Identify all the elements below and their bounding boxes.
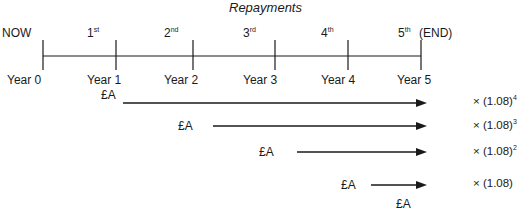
repayment-label-4: 4th (321, 26, 334, 40)
arrow-row-4 (371, 181, 427, 189)
final-amount-label: £A (396, 197, 411, 211)
year-label-3: Year 3 (243, 73, 277, 87)
ordinal-suffix: st (94, 26, 99, 33)
repayment-number: 4 (321, 26, 328, 40)
multiplier-exponent: 3 (513, 118, 517, 125)
ordinal-suffix: nd (171, 26, 179, 33)
repayment-label-3: 3rd (243, 26, 256, 40)
year-label-2: Year 2 (164, 73, 198, 87)
repayment-label-2: 2nd (164, 26, 178, 40)
repayment-number: 1 (87, 26, 94, 40)
now-label: NOW (2, 26, 31, 40)
year-label-0: Year 0 (7, 73, 41, 87)
arrow-row-3 (297, 148, 427, 156)
ordinal-suffix: th (405, 26, 411, 33)
end-label: (END) (419, 26, 452, 40)
amount-label-row-1: £A (101, 88, 116, 102)
repayment-label-1: 1st (87, 26, 99, 40)
repayment-number: 2 (164, 26, 171, 40)
multiplier-row-4: × (1.08) (473, 177, 513, 189)
multiplier-base: × (1.08) (473, 177, 513, 189)
ordinal-suffix: rd (250, 26, 256, 33)
year-label-4: Year 4 (321, 73, 355, 87)
repayment-label-5: 5th (398, 26, 411, 40)
multiplier-base: × (1.08) (473, 145, 513, 157)
repayment-number: 5 (398, 26, 405, 40)
multiplier-base: × (1.08) (473, 119, 513, 131)
amount-label-row-2: £A (178, 119, 193, 133)
ordinal-suffix: th (328, 26, 334, 33)
multiplier-exponent: 4 (513, 94, 517, 101)
multiplier-base: × (1.08) (473, 95, 513, 107)
repayment-number: 3 (243, 26, 250, 40)
multiplier-row-2: × (1.08)3 (473, 119, 517, 131)
arrow-row-1 (123, 99, 427, 107)
year-label-5: Year 5 (397, 73, 431, 87)
amount-label-row-3: £A (259, 145, 274, 159)
amount-label-row-4: £A (341, 178, 356, 192)
year-label-1: Year 1 (87, 73, 121, 87)
diagram-title: Repayments (229, 0, 302, 15)
arrow-row-2 (213, 122, 427, 130)
multiplier-row-1: × (1.08)4 (473, 95, 517, 107)
multiplier-row-3: × (1.08)2 (473, 145, 517, 157)
multiplier-exponent: 2 (513, 144, 517, 151)
